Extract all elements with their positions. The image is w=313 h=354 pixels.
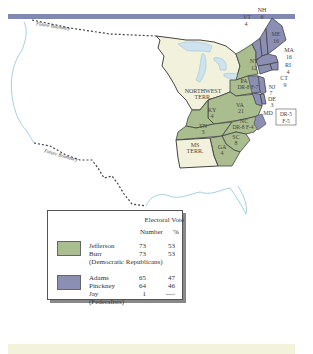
label-ma: MA (284, 47, 294, 53)
candidate-jefferson: Jefferson (89, 242, 115, 250)
west-coast-outline (11, 22, 34, 143)
label-vt-votes: 4 (245, 21, 248, 27)
label-md: MD (263, 110, 273, 116)
label-ga-votes: 4 (221, 150, 224, 156)
future-boundary-label-south: Future Boundary (43, 148, 79, 163)
burr-votes: 73 (130, 250, 146, 258)
adams-percent: 47 (159, 274, 175, 282)
label-ny: NY (250, 58, 259, 64)
label-me-votes: 16 (273, 38, 279, 44)
candidate-burr: Burr (89, 250, 102, 258)
label-ms-terr-line2: TERR. (187, 148, 204, 154)
legend-col-number: Number (140, 228, 163, 236)
label-nh: NH (258, 7, 267, 13)
adams-votes: 65 (130, 274, 146, 282)
burr-percent: 53 (159, 250, 175, 258)
label-de-votes: 3 (271, 102, 274, 108)
md-split-line1: DR-5 (280, 111, 292, 117)
label-ct-votes: 9 (284, 82, 287, 88)
label-ma-votes: 16 (286, 54, 292, 60)
candidate-jay: Jay (89, 290, 98, 298)
label-ri: RI (285, 62, 291, 68)
label-pa-votes: DR-8 F-7 (237, 84, 258, 90)
pinckney-votes: 64 (130, 282, 146, 290)
label-ny-votes: 12 (251, 65, 257, 71)
pinckney-percent: 46 (159, 282, 175, 290)
md-split-line2: F-5 (282, 118, 290, 124)
jay-votes: 1 (130, 290, 146, 298)
label-vt: VT (243, 14, 251, 20)
label-northwest-terr-line2: TERR. (195, 94, 212, 100)
label-ct: CT (280, 75, 288, 81)
jay-percent: ---- (159, 290, 175, 298)
election-map: Future Boundary Future Boundary NH 6 VT … (0, 0, 313, 354)
future-boundary-label-north: Future Boundary (35, 21, 72, 32)
label-me: ME (272, 31, 281, 37)
party-democratic-republicans: (Democratic Republicans) (89, 258, 163, 266)
label-tn-votes: 3 (202, 129, 205, 135)
candidate-adams: Adams (89, 274, 109, 282)
legend-col-percent: % (173, 228, 179, 236)
jefferson-votes: 73 (130, 242, 146, 250)
jefferson-percent: 53 (159, 242, 175, 250)
label-ky-votes: 4 (211, 113, 214, 119)
state-ct (258, 64, 272, 74)
swatch-democratic-republicans (57, 241, 81, 256)
label-nh-votes: 6 (261, 14, 264, 20)
label-sc-votes: 8 (235, 140, 238, 146)
candidate-pinckney: Pinckney (89, 282, 115, 290)
swatch-federalists (57, 275, 81, 290)
label-va-votes: 21 (238, 108, 244, 114)
party-federalists: (Federalists) (89, 298, 124, 306)
legend-header-electoral-vote: Electoral Vote (120, 216, 184, 224)
legend-content: Electoral Vote Number % Jefferson 73 53 … (47, 210, 237, 300)
label-nc-votes: DR-8 F-4 (232, 124, 253, 130)
bottom-caption-band (8, 344, 295, 354)
